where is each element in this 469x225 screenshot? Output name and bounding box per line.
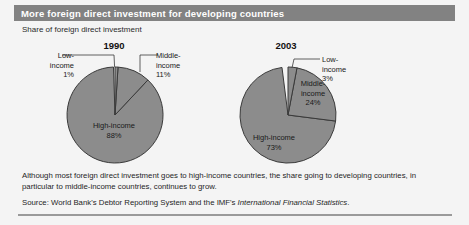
chart-title-2003: 2003: [258, 40, 314, 51]
pie-label-1990-high-income: High-income 88%: [78, 121, 150, 140]
pie-label-2003-low-income-name2: income: [322, 65, 364, 75]
pie-label-2003-high-income-name: High-income: [238, 133, 310, 143]
pie-label-1990-middle-income: Middle- income 11%: [156, 51, 204, 80]
pie-label-2003-middle-income-value: 24%: [290, 98, 336, 108]
pie-label-2003-low-income-name: Low-: [322, 55, 364, 65]
pie-label-1990-middle-income-name: Middle-: [156, 51, 204, 61]
slice-1990-high-income: [67, 67, 163, 163]
bottom-divider: [18, 214, 452, 216]
pie-label-2003-middle-income-name: Middle-: [290, 79, 336, 89]
figure-source: Source: World Bank's Debtor Reporting Sy…: [22, 197, 442, 208]
pie-label-2003-high-income: High-income 73%: [238, 133, 310, 152]
figure-source-suffix: .: [347, 198, 349, 207]
slice-1990-middle-income: [115, 67, 148, 115]
pie-label-1990-middle-income-value: 11%: [156, 70, 204, 80]
pie-label-1990-high-income-name: High-income: [78, 121, 150, 131]
pie-label-2003-middle-income: Middle- income 24%: [290, 79, 336, 108]
pie-label-1990-high-income-value: 88%: [78, 131, 150, 141]
pie-label-2003-high-income-value: 73%: [238, 143, 310, 153]
pie-label-1990-low-income-value: 1%: [34, 70, 74, 80]
figure-caption: Although most foreign direct investment …: [22, 170, 442, 192]
pie-label-2003-middle-income-name2: income: [290, 89, 336, 99]
figure-title: More foreign direct investment for devel…: [21, 8, 284, 19]
chart-title-1990: 1990: [86, 40, 142, 51]
figure-subtitle: Share of foreign direct investment: [22, 25, 142, 34]
pie-label-1990-low-income-name: Low-: [34, 51, 74, 61]
leader-line-2003-low-income: [292, 59, 320, 68]
pie-label-1990-low-income-name2: income: [34, 61, 74, 71]
figure-source-prefix: Source: World Bank's Debtor Reporting Sy…: [22, 198, 238, 207]
pie-label-1990-low-income: Low- income 1%: [34, 51, 74, 80]
figure-title-band: More foreign direct investment for devel…: [14, 5, 455, 21]
slice-1990-low-income: [115, 67, 118, 115]
pie-label-1990-middle-income-name2: income: [156, 61, 204, 71]
figure-panel: More foreign direct investment for devel…: [0, 0, 469, 225]
figure-source-italic-title: International Financial Statistics: [238, 198, 348, 207]
